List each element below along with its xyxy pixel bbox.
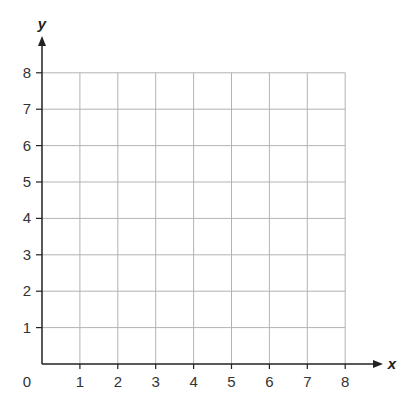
y-tick-label: 6 xyxy=(23,137,31,154)
y-axis-label: y xyxy=(37,15,47,32)
x-axis-label: x xyxy=(387,355,397,372)
x-tick-label: 2 xyxy=(114,373,122,390)
y-tick-label: 1 xyxy=(23,319,31,336)
x-tick-label: 4 xyxy=(189,373,197,390)
x-tick-label: 3 xyxy=(152,373,160,390)
x-tick-label: 6 xyxy=(265,373,273,390)
axis-ticks xyxy=(36,73,345,369)
y-tick-label: 5 xyxy=(23,173,31,190)
x-tick-labels: 12345678 xyxy=(76,373,350,390)
x-tick-label: 8 xyxy=(341,373,349,390)
y-tick-labels: 12345678 xyxy=(23,64,31,336)
x-tick-label: 1 xyxy=(76,373,84,390)
y-tick-label: 3 xyxy=(23,246,31,263)
y-tick-label: 4 xyxy=(23,209,31,226)
origin-label: 0 xyxy=(23,373,31,390)
x-tick-label: 7 xyxy=(303,373,311,390)
x-axis-arrow-icon xyxy=(373,360,383,368)
x-tick-label: 5 xyxy=(227,373,235,390)
y-tick-label: 7 xyxy=(23,100,31,117)
y-axis-arrow-icon xyxy=(38,36,46,46)
y-tick-label: 8 xyxy=(23,64,31,81)
coordinate-grid: y x 0 12345678 12345678 xyxy=(0,0,415,408)
y-tick-label: 2 xyxy=(23,282,31,299)
grid-lines xyxy=(42,73,345,364)
